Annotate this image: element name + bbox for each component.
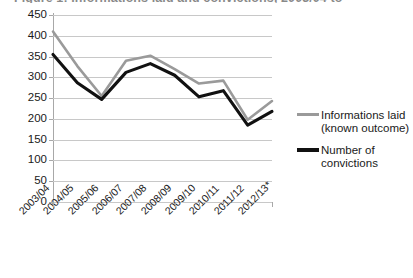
- y-tick-mark: [49, 15, 53, 16]
- x-tick-mark: [199, 203, 200, 207]
- legend-label-number-of-convictions: Number of convictions: [321, 144, 413, 170]
- y-tick-mark: [49, 119, 53, 120]
- x-tick-mark: [223, 203, 224, 207]
- x-tick-mark: [102, 203, 103, 207]
- legend-label-informations-laid: Informations laid (known outcome): [321, 109, 413, 135]
- chart-legend: Informations laid (known outcome) Number…: [297, 109, 413, 179]
- line-informations-laid: [53, 32, 272, 120]
- x-tick-mark: [150, 203, 151, 207]
- x-tick-mark: [126, 203, 127, 207]
- x-tick-mark: [272, 203, 273, 207]
- x-tick-mark: [175, 203, 176, 207]
- legend-item-number-of-convictions: Number of convictions: [297, 144, 413, 170]
- line-chart-figure: Figure 1: Informations laid and convicti…: [0, 0, 413, 278]
- y-tick-mark: [49, 57, 53, 58]
- y-tick-mark: [49, 98, 53, 99]
- legend-swatch-gray-line-icon: [297, 109, 319, 120]
- y-tick-mark: [49, 36, 53, 37]
- line-number-of-convictions: [53, 54, 272, 125]
- y-tick-mark: [49, 77, 53, 78]
- y-tick-mark: [49, 181, 53, 182]
- y-tick-mark: [49, 140, 53, 141]
- x-tick-mark: [77, 203, 78, 207]
- legend-swatch-black-line-icon: [297, 144, 319, 155]
- x-tick-mark: [53, 203, 54, 207]
- x-tick-mark: [248, 203, 249, 207]
- y-tick-mark: [49, 160, 53, 161]
- legend-item-informations-laid: Informations laid (known outcome): [297, 109, 413, 135]
